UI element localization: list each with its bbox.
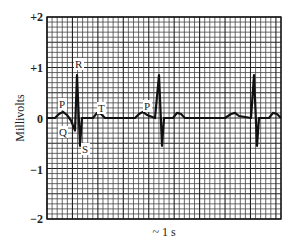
y-tick-0: 0: [37, 112, 43, 126]
label-q: Q: [59, 126, 67, 138]
x-axis-label: ~ 1 s: [152, 225, 175, 239]
label-s: S: [82, 143, 88, 155]
label-p2: P: [144, 100, 150, 112]
y-tick-minus-2: −2: [30, 212, 43, 226]
y-tick-plus-1: +1: [30, 61, 43, 75]
label-t: T: [98, 102, 105, 114]
y-axis-label: Millivolts: [13, 94, 27, 142]
label-r: R: [75, 58, 83, 70]
y-tick-plus-2: +2: [30, 10, 43, 24]
y-tick-minus-1: −1: [30, 163, 43, 177]
label-p1: P: [59, 98, 65, 110]
ecg-chart: +2 +1 0 −1 −2 Millivolts ~ 1 s P Q R S T…: [0, 0, 294, 242]
